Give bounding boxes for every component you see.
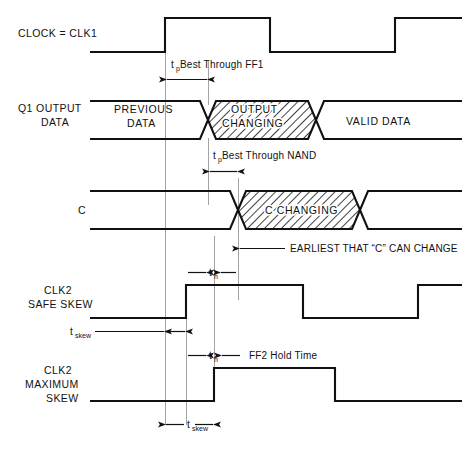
clock-waveform — [90, 18, 462, 52]
annotation-tp-nand: t p Best Through NAND — [210, 150, 316, 172]
clk2-max-label-line1: CLK2 — [44, 364, 72, 376]
th-top-symbol: t — [209, 267, 212, 278]
tp-nand-symbol: t — [213, 150, 216, 161]
tp-ff1-symbol: t — [171, 59, 174, 70]
c-after-outline — [360, 191, 462, 229]
clk2-max-label-line2: MAXIMUM — [25, 378, 79, 390]
tp-nand-text: Best Through NAND — [222, 150, 316, 161]
signal-clk2-safe-skew: CLK2 SAFE SKEW — [28, 284, 462, 318]
annotation-tp-ff1: t p Best Through FF1 — [167, 59, 264, 80]
c-label: C — [78, 204, 86, 216]
earliest-c-text: EARLIEST THAT “C” CAN CHANGE — [290, 243, 458, 254]
clk2-safe-label-line1: CLK2 — [44, 284, 72, 296]
clk2-safe-label-line2: SAFE SKEW — [28, 298, 93, 310]
clk2-safe-waveform — [90, 285, 462, 318]
tskew-max-subscript: skew — [192, 425, 209, 432]
signal-c: C C CHANGING — [78, 191, 462, 229]
signal-clock: CLOCK = CLK1 — [18, 18, 462, 52]
signal-clk2-maximum-skew: CLK2 MAXIMUM SKEW — [25, 364, 462, 404]
tskew-safe-subscript: skew — [75, 332, 92, 339]
tskew-max-symbol: t — [187, 419, 190, 430]
ff2-hold-time-text: FF2 Hold Time — [249, 350, 317, 361]
th-hold-subscript: h — [214, 356, 218, 363]
clock-label: CLOCK = CLK1 — [18, 27, 97, 39]
th-top-subscript: h — [214, 273, 218, 280]
q1-changing-line2: CHANGING — [222, 117, 283, 129]
tp-ff1-text: Best Through FF1 — [180, 59, 264, 70]
q1-valid-line1: VALID DATA — [346, 115, 411, 127]
timing-diagram-figure: CLOCK = CLK1 t p Best Through FF1 Q1 OUT… — [0, 0, 466, 449]
annotation-th-hold: t h FF2 Hold Time — [188, 350, 317, 363]
c-stable-outline — [90, 191, 238, 229]
q1-changing-line1: OUTPUT — [231, 103, 278, 115]
q1-previous-line1: PREVIOUS — [114, 103, 173, 115]
q1-label-line2: DATA — [41, 116, 69, 128]
annotation-th-top: t h — [188, 267, 236, 280]
annotation-earliest-c: EARLIEST THAT “C” CAN CHANGE — [240, 243, 458, 254]
annotation-tskew-max: t skew — [166, 419, 213, 432]
annotation-tskew-safe: t skew — [70, 326, 185, 339]
timing-diagram-canvas: CLOCK = CLK1 t p Best Through FF1 Q1 OUT… — [0, 0, 466, 449]
signal-q1-output-data: Q1 OUTPUT DATA PREVIOUS DATA OUTPUT CHAN… — [18, 101, 462, 139]
c-changing-label: C CHANGING — [265, 204, 338, 216]
q1-label-line1: Q1 OUTPUT — [18, 102, 82, 114]
th-hold-symbol: t — [209, 350, 212, 361]
tskew-safe-symbol: t — [70, 326, 73, 337]
q1-previous-line2: DATA — [127, 117, 156, 129]
clk2-max-label-line3: SKEW — [46, 392, 79, 404]
clk2-max-waveform — [90, 368, 462, 401]
